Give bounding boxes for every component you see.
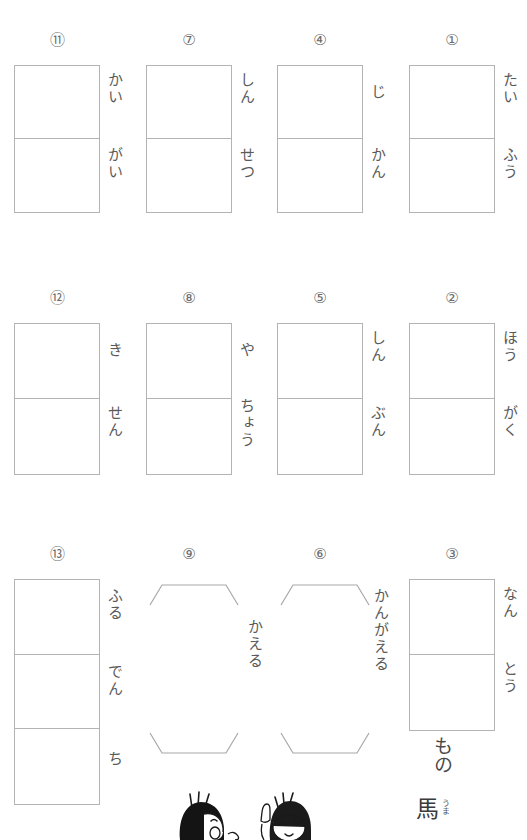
- reading-top-2: ほう: [497, 330, 522, 392]
- answer-grid-1[interactable]: [409, 65, 495, 213]
- answer-cell[interactable]: [15, 324, 99, 399]
- reading-bottom-5: ぶん: [365, 405, 390, 467]
- reading-top-3: なん: [497, 586, 522, 648]
- answer-grid-12[interactable]: [14, 579, 100, 805]
- reading-top-7: しん: [234, 72, 259, 134]
- answer-cell[interactable]: [15, 580, 99, 655]
- reading-6: かんがえる: [365, 588, 394, 736]
- okurigana-tail-3: もの: [431, 736, 453, 792]
- problem-number-11: ⑫: [14, 290, 100, 305]
- reading-top-11: き: [102, 342, 127, 382]
- answer-cell[interactable]: [410, 66, 494, 139]
- problem-number-5: ⑤: [277, 290, 363, 305]
- problem-number-10: ⑪: [14, 32, 100, 47]
- answer-cell[interactable]: [15, 139, 99, 212]
- answer-cell[interactable]: [410, 655, 494, 730]
- answer-grid-4[interactable]: [277, 65, 363, 213]
- answer-cell[interactable]: [278, 324, 362, 399]
- answer-cell[interactable]: [278, 399, 362, 474]
- answer-cell[interactable]: [147, 399, 231, 474]
- reading-bottom-8: ちょう: [234, 398, 259, 476]
- answer-cell[interactable]: [410, 139, 494, 212]
- answer-cell[interactable]: [15, 66, 99, 139]
- problem-number-7: ⑦: [146, 32, 232, 47]
- reading-top-1: たい: [497, 72, 522, 134]
- reading-top-12: ふる: [102, 588, 127, 646]
- okurigana-bracket-9[interactable]: [146, 579, 242, 759]
- reading-bottom-2: がく: [497, 405, 522, 467]
- answer-cell[interactable]: [15, 729, 99, 804]
- answer-cell[interactable]: [278, 66, 362, 139]
- reading-bottom-7: せつ: [234, 147, 259, 209]
- problem-number-8: ⑧: [146, 290, 232, 305]
- problem-number-9: ⑨: [146, 546, 232, 561]
- problem-number-2: ②: [409, 290, 495, 305]
- problem-number-12: ⑬: [14, 546, 100, 561]
- kanji-glyph: 馬: [416, 798, 439, 821]
- answer-cell[interactable]: [410, 580, 494, 655]
- reading-9: かえる: [234, 619, 273, 729]
- answer-grid-8[interactable]: [146, 323, 232, 475]
- answer-cell[interactable]: [278, 139, 362, 212]
- answer-cell[interactable]: [15, 655, 99, 730]
- reading-mid-12: でん: [102, 664, 127, 722]
- answer-cell[interactable]: [147, 139, 231, 212]
- answer-cell[interactable]: [410, 399, 494, 474]
- reading-top-4: じ: [365, 84, 390, 124]
- reading-bottom-3: とう: [497, 661, 522, 723]
- answer-grid-11[interactable]: [14, 323, 100, 475]
- answer-grid-5[interactable]: [277, 323, 363, 475]
- problem-number-6: ⑥: [277, 546, 363, 561]
- answer-cell[interactable]: [410, 324, 494, 399]
- two-children-illustration: [168, 790, 338, 840]
- problem-number-1: ①: [409, 32, 495, 47]
- reading-bottom-11: せん: [102, 405, 127, 467]
- worksheet-page: ⑪ かい がい ⑦ しん せつ ④ じ かん ① たい ふう: [0, 0, 527, 840]
- reading-top-5: しん: [365, 330, 390, 392]
- problem-number-4: ④: [277, 32, 363, 47]
- kanji-note-horse: 馬 うま: [416, 798, 448, 821]
- answer-grid-3[interactable]: [409, 579, 495, 731]
- reading-bottom-4: かん: [365, 147, 390, 209]
- reading-top-10: かい: [102, 72, 127, 134]
- answer-cell[interactable]: [147, 324, 231, 399]
- furigana-text: うま: [440, 799, 448, 815]
- reading-bottom-10: がい: [102, 147, 127, 209]
- reading-top-8: や: [234, 342, 259, 382]
- okurigana-bracket-6[interactable]: [277, 579, 373, 759]
- reading-bottom-12: ち: [102, 751, 127, 785]
- answer-grid-2[interactable]: [409, 323, 495, 475]
- answer-grid-10[interactable]: [14, 65, 100, 213]
- reading-bottom-1: ふう: [497, 147, 522, 209]
- answer-grid-7[interactable]: [146, 65, 232, 213]
- problem-number-3: ③: [409, 546, 495, 561]
- answer-cell[interactable]: [147, 66, 231, 139]
- answer-cell[interactable]: [15, 399, 99, 474]
